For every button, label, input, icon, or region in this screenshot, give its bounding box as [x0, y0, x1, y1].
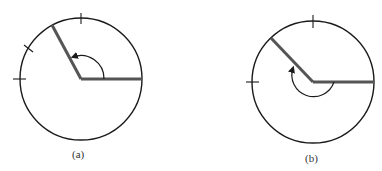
- tick-mark-150-a: [24, 45, 33, 52]
- figure-b: [246, 15, 374, 143]
- figure-a: [13, 13, 142, 140]
- terminal-ray-a: [52, 25, 81, 79]
- caption-a: (a): [72, 148, 84, 160]
- angle-diagrams: [0, 0, 382, 171]
- caption-b: (b): [305, 152, 318, 164]
